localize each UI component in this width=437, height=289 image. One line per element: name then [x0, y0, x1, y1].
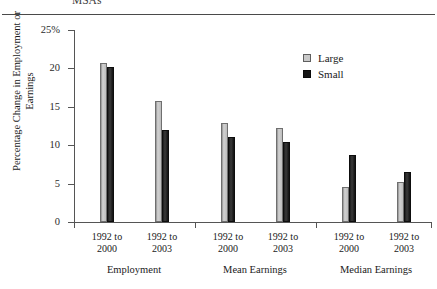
y-axis-line — [74, 30, 75, 223]
bar-small — [107, 67, 114, 222]
x-axis-category-label: 1992 to2000 — [76, 231, 138, 255]
bar-small — [228, 137, 235, 222]
x-axis-tick — [431, 222, 432, 228]
bar-small — [283, 142, 290, 222]
y-axis-tick — [68, 30, 74, 31]
legend-item-label: Small — [318, 68, 344, 80]
x-axis-category-label-line1: 1992 to — [76, 231, 138, 243]
y-axis-tick — [68, 184, 74, 185]
y-axis-tick — [68, 107, 74, 108]
legend-item: Small — [303, 66, 344, 82]
bar-large — [100, 63, 107, 222]
bar-large — [221, 123, 228, 222]
x-axis-category-label: 1992 to2000 — [197, 231, 259, 255]
x-axis-category-label-line2: 2000 — [318, 243, 380, 255]
large-swatch-icon — [303, 54, 311, 62]
x-axis-category-label-line1: 1992 to — [252, 231, 314, 243]
x-axis-category-label: 1992 to2000 — [318, 231, 380, 255]
legend-item: Large — [303, 50, 344, 66]
x-axis-group-label: Mean Earnings — [195, 264, 315, 276]
bar-large — [155, 101, 162, 222]
x-axis-tick — [74, 222, 75, 228]
x-axis-group-label: Employment — [74, 264, 194, 276]
x-axis-category-label-line1: 1992 to — [197, 231, 259, 243]
x-axis-category-label-line1: 1992 to — [131, 231, 193, 243]
y-axis-tick-label: 0 — [20, 217, 60, 227]
x-axis-category-label-line2: 2003 — [252, 243, 314, 255]
x-axis-category-label-line2: 2000 — [76, 243, 138, 255]
x-axis-category-label: 1992 to2003 — [373, 231, 435, 255]
x-axis-line — [74, 222, 431, 223]
legend-item-label: Large — [318, 52, 343, 64]
bar-small — [404, 172, 411, 222]
x-axis-tick — [316, 222, 317, 228]
bar-small — [349, 155, 356, 222]
x-axis-category-label: 1992 to2003 — [252, 231, 314, 255]
x-axis-category-label-line1: 1992 to — [318, 231, 380, 243]
bar-chart: 0510152025% Percentage Change in Employm… — [0, 0, 437, 289]
y-axis-tick — [68, 145, 74, 146]
x-axis-category-label: 1992 to2003 — [131, 231, 193, 255]
x-axis-tick — [195, 222, 196, 228]
x-axis-group-label: Median Earnings — [316, 264, 436, 276]
chart-legend: LargeSmall — [303, 50, 344, 82]
y-axis-tick-label: 5 — [20, 179, 60, 189]
bar-large — [397, 182, 404, 222]
small-swatch-icon — [303, 70, 311, 78]
y-axis-tick — [68, 68, 74, 69]
bar-small — [162, 130, 169, 222]
bar-large — [342, 187, 349, 222]
x-axis-category-label-line2: 2003 — [131, 243, 193, 255]
x-axis-category-label-line2: 2003 — [373, 243, 435, 255]
x-axis-category-label-line1: 1992 to — [373, 231, 435, 243]
bar-large — [276, 128, 283, 222]
y-axis-title: Percentage Change in Employment or Earni… — [10, 6, 36, 176]
x-axis-category-label-line2: 2000 — [197, 243, 259, 255]
